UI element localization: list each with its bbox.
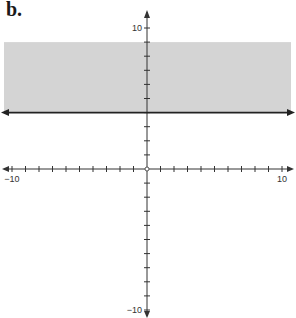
y-axis-up-arrow-icon [144,10,150,18]
inequality-graph: −101010−10 [0,0,296,318]
x-tick-label: 10 [277,174,287,184]
y-axis-down-arrow-icon [144,311,150,318]
origin-marker [145,167,149,171]
x-axis-right-arrow-icon [287,166,294,172]
x-tick-label: −10 [4,174,19,184]
y-tick-label: 10 [132,23,142,33]
y-tick-label: −10 [127,305,142,315]
x-axis-left-arrow-icon [2,166,9,172]
